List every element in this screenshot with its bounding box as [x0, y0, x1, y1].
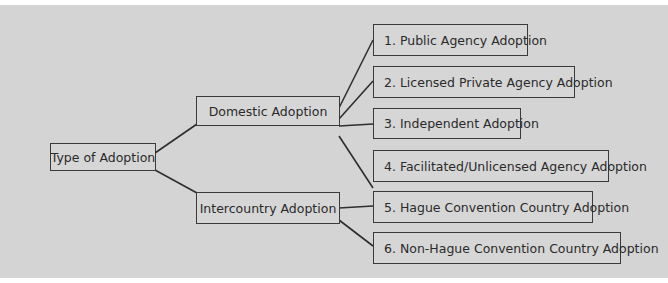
node-label: 3. Independent Adoption [384, 116, 539, 131]
node-label: 2. Licensed Private Agency Adoption [384, 75, 613, 90]
node-type-of-adoption: Type of Adoption [50, 143, 156, 171]
node-facilitated-unlicensed-agency-adoption: 4. Facilitated/Unlicensed Agency Adoptio… [373, 150, 609, 182]
node-public-agency-adoption: 1. Public Agency Adoption [373, 24, 528, 56]
node-label: Intercountry Adoption [200, 201, 337, 216]
node-hague-convention-country-adoption: 5. Hague Convention Country Adoption [373, 191, 593, 223]
node-domestic-adoption: Domestic Adoption [196, 96, 340, 126]
node-non-hague-convention-country-adoption: 6. Non-Hague Convention Country Adoption [373, 232, 621, 264]
node-label: 1. Public Agency Adoption [384, 33, 547, 48]
node-label: 5. Hague Convention Country Adoption [384, 200, 629, 215]
node-licensed-private-agency-adoption: 2. Licensed Private Agency Adoption [373, 66, 575, 98]
node-label: 4. Facilitated/Unlicensed Agency Adoptio… [384, 159, 647, 174]
node-intercountry-adoption: Intercountry Adoption [196, 192, 340, 224]
node-independent-adoption: 3. Independent Adoption [373, 108, 521, 139]
node-label: 6. Non-Hague Convention Country Adoption [384, 241, 659, 256]
node-label: Type of Adoption [51, 150, 156, 165]
node-label: Domestic Adoption [209, 104, 328, 119]
